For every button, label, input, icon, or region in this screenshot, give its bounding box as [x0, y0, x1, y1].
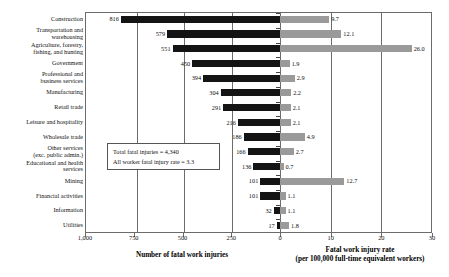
bar-fatal-injuries: [167, 30, 280, 37]
category-label: Manufacturing: [46, 89, 83, 96]
chart-row: Utilities171.8: [0, 218, 449, 233]
value-label-injuries: 816: [98, 15, 119, 22]
category-label: Government: [52, 60, 83, 67]
bar-fatal-injuries: [121, 16, 280, 23]
bar-injury-rate: [280, 75, 295, 82]
value-label-rate: 2.1: [293, 119, 317, 126]
value-label-injuries: 101: [237, 192, 258, 199]
value-label-injuries: 101: [237, 177, 258, 184]
fatal-work-injuries-chart: Construction8169.7Transportation and war…: [0, 0, 449, 277]
category-label: Professional and business services: [41, 71, 83, 84]
category-label: Financial activities: [36, 193, 83, 200]
chart-row: Professional and business services3942.9: [0, 71, 449, 86]
row-tickmark: [276, 13, 280, 14]
row-tickmark: [276, 57, 280, 58]
value-label-injuries: 450: [169, 60, 190, 67]
chart-row: Agriculture, forestry, fishing, and hunt…: [0, 41, 449, 56]
category-label: Retail trade: [54, 104, 83, 111]
category-label: Wholesale trade: [43, 134, 83, 141]
value-label-injuries: 216: [215, 119, 236, 126]
axis-tick-rate: 30: [412, 234, 449, 241]
bar-fatal-injuries: [260, 192, 280, 199]
category-label: Information: [53, 207, 83, 214]
bar-fatal-injuries: [192, 60, 280, 67]
chart-row: Other services (exc. public admin.)1662.…: [0, 145, 449, 160]
bar-fatal-injuries: [173, 45, 280, 52]
category-label: Leisure and hospitality: [26, 119, 83, 126]
left-axis-title: Number of fatal work injuries: [82, 251, 282, 260]
row-tickmark: [276, 219, 280, 220]
chart-row: Educational and health services1360.7: [0, 159, 449, 174]
value-label-injuries: 579: [144, 30, 165, 37]
note-total-injuries: Total fatal injuries = 4,340: [113, 147, 214, 157]
bar-fatal-injuries: [221, 89, 280, 96]
bar-injury-rate: [280, 178, 344, 185]
chart-row: Transportation and warehousing57912.1: [0, 27, 449, 42]
row-tickmark: [276, 116, 280, 117]
chart-row: Information321.1: [0, 204, 449, 219]
value-label-rate: 12.7: [346, 177, 370, 184]
note-all-worker-rate: All worker fatal injury rate = 3.3: [113, 157, 214, 167]
value-label-rate: 1.1: [288, 207, 312, 214]
row-tickmark: [276, 205, 280, 206]
value-label-rate: 4.9: [307, 133, 331, 140]
value-label-rate: 0.7: [286, 163, 310, 170]
value-label-injuries: 304: [198, 89, 219, 96]
value-label-rate: 1.1: [288, 192, 312, 199]
chart-row: Retail trade2912.1: [0, 100, 449, 115]
bar-injury-rate: [280, 16, 329, 23]
bar-injury-rate: [280, 222, 289, 229]
category-label: Utilities: [63, 222, 83, 229]
axis-tick-injuries: 500: [163, 234, 203, 241]
row-tickmark: [276, 87, 280, 88]
axis-tick-injuries: 1,000: [65, 234, 105, 241]
row-tickmark: [276, 102, 280, 103]
chart-row: Wholesale trade1864.9: [0, 130, 449, 145]
bar-injury-rate: [280, 192, 286, 199]
summary-note-box: Total fatal injuries = 4,340 All worker …: [107, 143, 220, 170]
right-axis-title-line: (per 100,000 full-time equivalent worker…: [270, 255, 449, 264]
axis-tick-rate: 10: [311, 234, 351, 241]
axis-tick-rate: 20: [361, 234, 401, 241]
bar-injury-rate: [280, 104, 291, 111]
row-tickmark: [276, 28, 280, 29]
value-label-rate: 26.0: [414, 45, 438, 52]
bar-fatal-injuries: [223, 104, 280, 111]
bar-fatal-injuries: [244, 133, 280, 140]
axis-tick-injuries: 750: [114, 234, 154, 241]
bar-injury-rate: [280, 163, 284, 170]
chart-row: Financial activities1011.1: [0, 189, 449, 204]
value-label-rate: 9.7: [331, 15, 355, 22]
value-label-injuries: 166: [225, 148, 246, 155]
bar-injury-rate: [280, 45, 412, 52]
value-label-injuries: 291: [200, 104, 221, 111]
category-label: Transportation and warehousing: [36, 27, 83, 40]
row-tickmark: [276, 131, 280, 132]
category-label: Construction: [51, 16, 83, 23]
row-tickmark: [276, 72, 280, 73]
row-tickmark: [276, 161, 280, 162]
value-label-injuries: 551: [150, 45, 171, 52]
category-label: Agriculture, forestry, fishing, and hunt…: [31, 42, 83, 55]
value-label-rate: 2.2: [293, 89, 317, 96]
category-label: Other services (exc. public admin.): [33, 145, 83, 158]
value-label-injuries: 136: [230, 163, 251, 170]
bar-fatal-injuries: [238, 119, 280, 126]
value-label-rate: 1.8: [291, 222, 315, 229]
bar-injury-rate: [280, 119, 291, 126]
bar-injury-rate: [280, 60, 290, 67]
chart-row: Mining10112.7: [0, 174, 449, 189]
row-tickmark: [276, 146, 280, 147]
value-label-rate: 2.1: [293, 104, 317, 111]
bar-injury-rate: [280, 133, 305, 140]
axis-tick-injuries: 250: [211, 234, 251, 241]
bar-injury-rate: [280, 207, 286, 214]
right-axis-title-line: Fatal work injury rate: [270, 246, 449, 255]
value-label-rate: 12.1: [343, 30, 367, 37]
row-tickmark: [276, 175, 280, 176]
value-label-injuries: 186: [221, 133, 242, 140]
category-label: Mining: [65, 178, 83, 185]
bar-injury-rate: [280, 30, 341, 37]
chart-row: Construction8169.7: [0, 12, 449, 27]
chart-row: Manufacturing3042.2: [0, 86, 449, 101]
